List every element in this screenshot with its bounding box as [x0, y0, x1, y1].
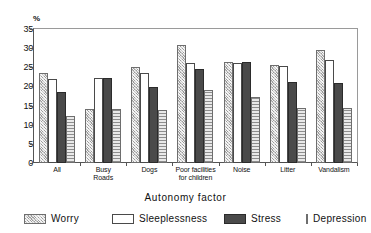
bar-group [265, 29, 311, 163]
bar-stress-dogs [149, 87, 158, 163]
legend-item-depression[interactable]: Depression [306, 213, 364, 224]
legend-swatch-stress [224, 214, 246, 224]
bar-depression-noise [251, 97, 260, 163]
x-axis-label: Poor facilitiesfor children [172, 166, 218, 182]
x-axis-label: Dogs [126, 166, 172, 182]
bar-worry-vandalism [316, 50, 325, 163]
bar-worry-busy-roads [85, 109, 94, 163]
bar-depression-busy-roads [112, 109, 121, 163]
x-axis-label: All [34, 166, 80, 182]
bar-stress-busy-roads [103, 78, 112, 163]
x-axis-tick-mark [126, 163, 127, 166]
bar-depression-poor-facilities-for-children [204, 90, 213, 163]
bar-sleeplessness-vandalism [325, 60, 334, 163]
x-axis-tick-mark [265, 163, 266, 166]
bar-stress-vandalism [334, 83, 343, 163]
bar-depression-all [66, 116, 75, 163]
chart-legend: WorrySleeplessnessStressDepression [24, 213, 364, 224]
bar-worry-noise [224, 62, 233, 163]
bar-sleeplessness-noise [233, 63, 242, 163]
y-axis: 05101520253035 [0, 28, 33, 164]
legend-label: Stress [251, 213, 281, 224]
x-axis-label: Litter [265, 166, 311, 182]
bar-sleeplessness-poor-facilities-for-children [186, 63, 195, 163]
legend-label: Sleeplessness [139, 213, 207, 224]
x-axis-tick-mark [172, 163, 173, 166]
x-axis-title: Autonomy factor [0, 192, 371, 203]
bar-stress-litter [288, 82, 297, 163]
legend-item-worry[interactable]: Worry [24, 213, 112, 224]
bar-sleeplessness-all [48, 79, 57, 163]
bar-groups [34, 29, 357, 163]
x-axis-tick-mark [80, 163, 81, 166]
bar-depression-litter [297, 108, 306, 163]
bar-group [311, 29, 357, 163]
bar-sleeplessness-dogs [140, 73, 149, 163]
bar-depression-vandalism [343, 108, 352, 164]
bar-group [126, 29, 172, 163]
bar-group [34, 29, 80, 163]
x-axis-label: BusyRoads [80, 166, 126, 182]
bar-stress-all [57, 92, 66, 163]
x-axis-labels: AllBusyRoadsDogsPoor facilitiesfor child… [34, 166, 357, 182]
bar-sleeplessness-busy-roads [94, 78, 103, 163]
y-axis-unit-label: % [33, 14, 40, 23]
chart-figure: % 05101520253035 AllBusyRoadsDogsPoor fa… [0, 0, 371, 233]
legend-item-stress[interactable]: Stress [224, 213, 306, 224]
y-axis-tick-mark [30, 163, 33, 164]
legend-swatch-depression [306, 214, 308, 224]
bar-worry-litter [270, 65, 279, 163]
x-axis-tick-mark [311, 163, 312, 166]
bar-worry-dogs [131, 67, 140, 163]
bar-stress-poor-facilities-for-children [195, 69, 204, 163]
bar-group [219, 29, 265, 163]
bar-depression-dogs [158, 110, 167, 163]
bar-worry-all [39, 73, 48, 163]
bar-group [172, 29, 218, 163]
bar-stress-noise [242, 62, 251, 163]
bar-group [80, 29, 126, 163]
legend-swatch-sleeplessness [112, 214, 134, 224]
bar-sleeplessness-litter [279, 66, 288, 163]
legend-label: Depression [313, 213, 367, 224]
x-axis-tick-mark [219, 163, 220, 166]
x-axis-label: Vandalism [311, 166, 357, 182]
x-axis-label: Noise [219, 166, 265, 182]
legend-label: Worry [51, 213, 79, 224]
legend-swatch-worry [24, 214, 46, 224]
legend-item-sleeplessness[interactable]: Sleeplessness [112, 213, 224, 224]
bar-worry-poor-facilities-for-children [177, 45, 186, 163]
x-axis-tick-mark [357, 163, 358, 166]
